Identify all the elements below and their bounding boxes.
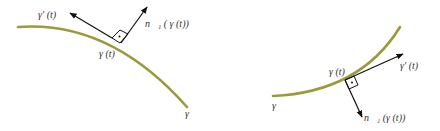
left-right-angle-dot [119,36,121,38]
left-curve [18,26,187,107]
right-point-label: γ (t) [329,67,345,77]
left-curve-label: γ [185,109,189,119]
right-curve [273,27,400,96]
right-tangent-label: γ′ (t) [400,61,418,71]
left-normal-label: n⃗₁ ( γ (t)) [145,19,189,29]
right-curve-label: γ [272,101,276,111]
left-tangent-label: γ′ (t) [38,10,56,20]
right-normal-label: n⃗₁ (γ (t)) [364,113,405,123]
left-tangent-arrow [70,13,112,38]
left-point-label: γ (t) [99,49,115,59]
right-right-angle-dot [351,82,353,84]
